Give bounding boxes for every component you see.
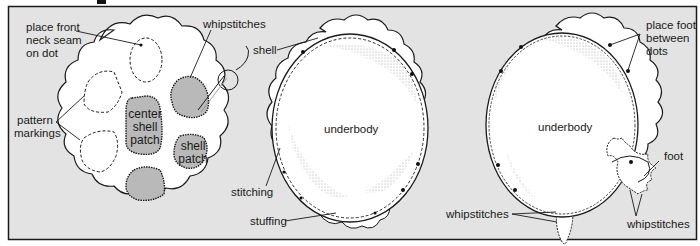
label-stitching: stitching bbox=[231, 186, 273, 198]
label-neck-seam-3: on dot bbox=[26, 47, 59, 59]
label-whipstitches-3: whipstitches bbox=[626, 218, 690, 230]
label-neck-seam-1: place front bbox=[26, 21, 81, 33]
label-whipstitches-1: whipstitches bbox=[202, 18, 266, 30]
label-pattern-markings-1: pattern bbox=[17, 114, 53, 126]
cut-off-title-glyph bbox=[97, 0, 106, 4]
label-place-foot-1: place foot bbox=[646, 19, 697, 31]
label-underbody-2: underbody bbox=[538, 121, 593, 133]
label-center-patch-1: center bbox=[128, 107, 161, 121]
label-shell-patch-2: patch bbox=[178, 152, 207, 166]
label-shell-patch-1: shell bbox=[181, 139, 206, 153]
turtle-sewing-diagram: place front neck seam on dot whipstitche… bbox=[0, 0, 700, 246]
label-stuffing: stuffing bbox=[250, 215, 287, 227]
label-foot: foot bbox=[664, 150, 684, 162]
label-whipstitches-2: whipstitches bbox=[445, 208, 509, 220]
label-place-foot-3: dots bbox=[646, 45, 668, 57]
label-place-foot-2: between bbox=[646, 32, 689, 44]
label-underbody-1: underbody bbox=[324, 123, 379, 135]
lower-shell-patch bbox=[126, 167, 165, 200]
label-shell: shell bbox=[253, 44, 277, 56]
label-center-patch-3: patch bbox=[130, 133, 159, 147]
label-center-patch-2: shell bbox=[133, 120, 158, 134]
label-neck-seam-2: neck seam bbox=[26, 34, 82, 46]
label-pattern-markings-2: markings bbox=[14, 127, 61, 139]
